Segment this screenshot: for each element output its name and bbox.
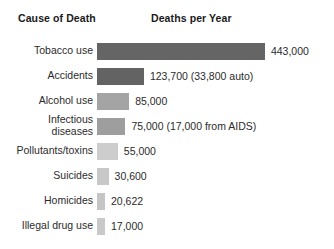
bar <box>97 168 109 185</box>
bar-row: Tobacco use443,000 <box>0 40 334 65</box>
bar <box>97 218 105 235</box>
bar-value-label: 85,000 <box>135 95 167 107</box>
bar-value-label: 17,000 <box>111 220 143 232</box>
bar-row-label: Suicides <box>0 170 93 182</box>
bar-row: Alcohol use85,000 <box>0 90 334 115</box>
bar-value-label: 443,000 <box>271 45 309 57</box>
bar <box>97 43 265 60</box>
bar <box>97 118 125 135</box>
bar-row-label: Accidents <box>0 70 93 82</box>
bar-row: Pollutants/toxins55,000 <box>0 140 334 165</box>
bar-value-label: 75,000 (17,000 from AIDS) <box>131 120 256 132</box>
bar-value-label: 123,700 (33,800 auto) <box>150 70 253 82</box>
bar-row-label: Alcohol use <box>0 95 93 107</box>
column-header-deaths-per-year: Deaths per Year <box>151 12 232 24</box>
cause-of-death-bar-chart: Cause of Death Deaths per Year Tobacco u… <box>0 0 334 249</box>
bar-row: Illegal drug use17,000 <box>0 215 334 240</box>
bar <box>97 193 105 210</box>
bar-rows-container: Tobacco use443,000Accidents123,700 (33,8… <box>0 40 334 240</box>
bar-row: Infectious diseases75,000 (17,000 from A… <box>0 115 334 140</box>
bar-row: Suicides30,600 <box>0 165 334 190</box>
bar <box>97 68 144 85</box>
bar-row-label: Illegal drug use <box>0 220 93 232</box>
bar <box>97 93 129 110</box>
chart-header: Cause of Death Deaths per Year <box>0 12 334 30</box>
bar-row-label: Infectious diseases <box>0 114 93 137</box>
bar-row-label: Tobacco use <box>0 45 93 57</box>
column-header-cause-of-death: Cause of Death <box>18 12 96 24</box>
bar <box>97 143 118 160</box>
bar-row: Accidents123,700 (33,800 auto) <box>0 65 334 90</box>
bar-row-label: Pollutants/toxins <box>0 145 93 157</box>
bar-value-label: 30,600 <box>115 170 147 182</box>
bar-value-label: 20,622 <box>111 195 143 207</box>
bar-row-label: Homicides <box>0 195 93 207</box>
bar-value-label: 55,000 <box>124 145 156 157</box>
bar-row: Homicides20,622 <box>0 190 334 215</box>
